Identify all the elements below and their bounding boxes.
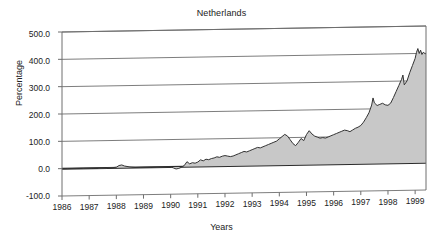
x-tick-label: 1993 (237, 199, 267, 209)
x-tick-label: 1992 (210, 199, 240, 209)
chart-figure: Netherlands Percentage 500.0 400.0 300.0… (0, 0, 443, 239)
x-tick-label: 1987 (74, 202, 104, 212)
x-tick-label: 1991 (183, 200, 213, 210)
x-tick-label: 1988 (101, 201, 131, 211)
x-tick-label: 1997 (346, 197, 376, 207)
x-tick-label: 1995 (291, 198, 321, 208)
x-tick-label: 1994 (264, 198, 294, 208)
x-tick-label: 1990 (156, 200, 186, 210)
x-tick-label: 1989 (128, 201, 158, 211)
x-axis-title: Years (0, 222, 443, 232)
x-axis-tick-labels: 1986198719881989199019911992199319941995… (0, 0, 443, 239)
x-tick-label: 1986 (47, 202, 77, 212)
x-tick-label: 1996 (319, 198, 349, 208)
x-tick-label: 1998 (373, 197, 403, 207)
x-tick-label: 1999 (400, 196, 430, 206)
